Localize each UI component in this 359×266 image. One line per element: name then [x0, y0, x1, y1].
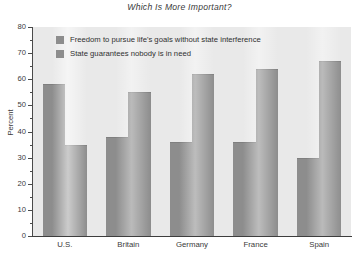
bar	[319, 61, 341, 236]
bar	[256, 69, 278, 236]
chart-figure: Which Is More Important? 010203040506070…	[0, 0, 359, 266]
bar	[233, 142, 255, 236]
bar	[297, 158, 319, 236]
legend-item: Freedom to pursue life's goals without s…	[56, 34, 261, 46]
x-axis-category-label: France	[224, 240, 288, 249]
chart-legend: Freedom to pursue life's goals without s…	[56, 34, 261, 62]
bar	[170, 142, 192, 236]
legend-label: Freedom to pursue life's goals without s…	[70, 36, 261, 44]
y-axis-tick-label: 60	[18, 75, 26, 83]
y-axis-tick-label: 50	[18, 102, 26, 110]
y-axis-tick-label: 20	[18, 180, 26, 188]
y-axis-tick-label: 10	[18, 206, 26, 214]
x-axis-category-label: Germany	[160, 240, 224, 249]
legend-label: State guarantees nobody is in need	[70, 50, 191, 58]
y-axis-tick-label: 40	[18, 128, 26, 136]
bar	[106, 137, 128, 236]
bar-group	[297, 27, 342, 236]
x-axis-category-label: Spain	[287, 240, 351, 249]
legend-item: State guarantees nobody is in need	[56, 48, 261, 60]
bar	[128, 92, 150, 236]
y-axis-tick-label: 0	[22, 232, 26, 240]
y-axis-tick-label: 30	[18, 154, 26, 162]
chart-title: Which Is More Important?	[0, 2, 359, 12]
footer-note	[8, 258, 351, 266]
x-axis-labels: U.S.BritainGermanyFranceSpain	[33, 240, 351, 254]
y-axis-tick-label: 70	[18, 49, 26, 57]
bar	[65, 145, 87, 236]
y-axis-title: Percent	[6, 93, 15, 153]
legend-swatch-icon	[56, 36, 64, 44]
legend-swatch-icon	[56, 50, 64, 58]
x-axis-category-label: U.S.	[33, 240, 97, 249]
y-axis-tick-label: 80	[18, 23, 26, 31]
x-axis-line	[32, 236, 352, 237]
x-axis-category-label: Britain	[97, 240, 161, 249]
bar	[43, 84, 65, 236]
bar	[192, 74, 214, 236]
